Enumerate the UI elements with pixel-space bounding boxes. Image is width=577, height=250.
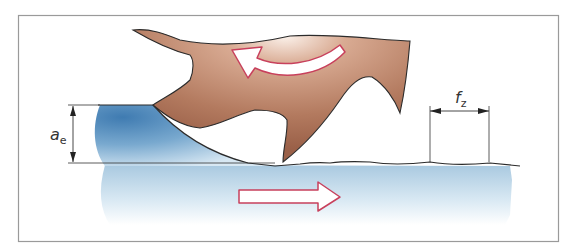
ae-label-symbol: a xyxy=(50,125,60,144)
milling-diagram: ae fz xyxy=(0,0,577,250)
fz-label-subscript: z xyxy=(461,97,467,110)
ae-label-subscript: e xyxy=(60,134,67,147)
